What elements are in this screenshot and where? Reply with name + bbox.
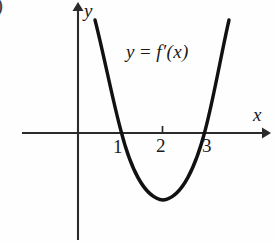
y-axis-group	[73, 2, 84, 240]
x-tick-label-2: 2	[156, 136, 166, 155]
derivative-graph-figure: ) y x 1 2 3 y = f′(x)	[0, 0, 274, 244]
equation-argument: (x)	[167, 41, 189, 62]
x-tick-label-3: 3	[202, 136, 212, 155]
equation-y: y	[126, 41, 135, 62]
curve-equation-label: y = f′(x)	[126, 42, 189, 61]
y-axis-label: y	[84, 1, 92, 20]
equation-equals: =	[135, 41, 156, 62]
x-axis-label: x	[253, 105, 261, 124]
y-axis-arrowhead	[73, 2, 84, 11]
x-axis-group	[22, 126, 271, 139]
graph-canvas	[0, 0, 274, 244]
x-tick-label-1: 1	[113, 137, 123, 156]
x-axis-arrowhead	[262, 128, 271, 139]
